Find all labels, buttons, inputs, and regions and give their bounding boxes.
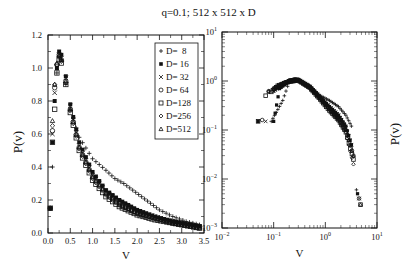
plus-marker (55, 71, 59, 75)
legend: D= 8D= 16D= 32D= 64D=128D=256D=512 (155, 43, 198, 139)
y-tick-label: 0.2 (31, 195, 42, 205)
plus-marker (142, 197, 146, 201)
filled-square-marker (275, 103, 278, 106)
filled-square-marker (272, 120, 275, 123)
y-tick-label: 1.2 (31, 30, 42, 40)
triangle-marker (359, 203, 363, 206)
cross-marker (52, 91, 56, 95)
filled-square-marker (50, 140, 54, 144)
x-tick-label: 1.5 (110, 236, 121, 246)
y-tick-label: 0.0 (31, 228, 42, 238)
x-tick-label: 2.5 (154, 236, 165, 246)
data-points (256, 77, 362, 206)
y-axis-label: P(v) (387, 123, 402, 145)
plus-marker (110, 174, 114, 178)
square-marker (264, 94, 268, 98)
plus-marker (151, 203, 155, 207)
legend-entry: D=128 (166, 98, 192, 108)
y-tick-label: 1.0 (31, 63, 42, 73)
legend-entry: D=512 (166, 124, 191, 134)
x-tick-label: 0.0 (43, 236, 54, 246)
tick-label: 10−1 (266, 231, 281, 242)
tick-label: 10−2 (215, 231, 230, 242)
plus-marker (97, 162, 101, 166)
series-d128 (256, 79, 362, 207)
circle-marker (260, 118, 264, 122)
plot-frame (222, 32, 377, 228)
plus-marker (136, 192, 140, 196)
legend-entry: D=256 (166, 111, 192, 121)
x-tick-label: 3.5 (199, 236, 210, 246)
filled-square-marker (256, 120, 259, 123)
plus-marker (139, 195, 143, 199)
plus-marker (284, 89, 288, 93)
plus-marker (145, 199, 149, 203)
plus-marker (125, 184, 129, 188)
y-tick-label: 0.6 (31, 129, 42, 139)
x-tick-label: 0.5 (65, 236, 76, 246)
legend-entry: D= 64 (166, 85, 189, 95)
tick-label: 10−1 (202, 124, 217, 135)
diamond-marker (352, 162, 356, 166)
x-axis-label: V (122, 249, 130, 261)
plus-marker (107, 171, 111, 175)
square-marker (52, 107, 56, 111)
tick-label: 101 (206, 26, 218, 37)
x-tick-label: 1.0 (87, 236, 98, 246)
series-d16 (256, 77, 359, 195)
filled-square-marker (274, 112, 277, 115)
tick-label: 100 (206, 75, 218, 86)
y-tick-label: 0.8 (31, 96, 42, 106)
right-panel-loglog: 10−210−110010110−310−210−1100101VP(v) (202, 26, 402, 259)
legend-entry: D= 32 (166, 72, 189, 82)
plus-marker (104, 168, 108, 172)
plus-marker (148, 201, 152, 205)
plus-marker (100, 165, 104, 169)
plus-marker (283, 94, 287, 98)
plus-marker (130, 188, 134, 192)
cross-marker (264, 120, 268, 124)
y-tick-label: 0.4 (31, 162, 42, 172)
circle-marker (50, 129, 54, 133)
plus-marker (154, 206, 158, 210)
legend-entry: D= 16 (166, 59, 189, 69)
x-axis-label: V (296, 247, 304, 259)
plus-marker (94, 159, 98, 163)
x-tick-label: 3.0 (176, 236, 187, 246)
plus-marker (90, 157, 94, 161)
diamond-marker (50, 124, 54, 128)
filled-square-marker (276, 95, 279, 98)
triangle-marker (50, 119, 54, 123)
filled-square-marker (71, 115, 75, 119)
plus-marker (133, 190, 137, 194)
plus-marker (50, 165, 54, 169)
left-panel-linear: 0.00.51.01.52.02.53.03.50.00.20.40.60.81… (10, 30, 209, 261)
legend-entry: D= 8 (166, 46, 187, 56)
tick-label: 100 (320, 231, 332, 242)
figure: 0.00.51.01.52.02.53.03.50.00.20.40.60.81… (0, 0, 417, 274)
plus-marker (355, 188, 359, 192)
plus-marker (128, 186, 132, 190)
plus-marker (87, 151, 91, 155)
y-axis-label: P(v) (10, 131, 25, 153)
x-tick-label: 2.0 (132, 236, 143, 246)
tick-label: 10−2 (202, 173, 217, 184)
filled-square-marker (53, 99, 57, 103)
tick-label: 101 (371, 231, 383, 242)
filled-square-marker (159, 62, 163, 66)
filled-square-marker (356, 192, 359, 195)
